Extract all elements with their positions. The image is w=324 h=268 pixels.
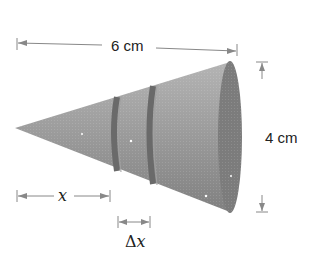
delta-x-dimension-arrow (118, 216, 150, 228)
delta-symbol: Δ (125, 232, 137, 251)
delta-x-variable: x (137, 232, 146, 251)
diameter-label: 4 cm (265, 129, 298, 146)
x-label: x (58, 186, 67, 205)
delta-x-label: Δx (125, 232, 146, 251)
length-label: 6 cm (111, 37, 144, 54)
cone (15, 61, 242, 213)
